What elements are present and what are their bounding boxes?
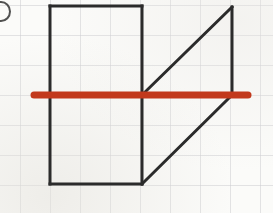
- lower-diagonal: [142, 95, 232, 184]
- figure-canvas: [0, 0, 273, 213]
- geometry-figure: [0, 0, 273, 213]
- upper-diagonal: [142, 7, 232, 95]
